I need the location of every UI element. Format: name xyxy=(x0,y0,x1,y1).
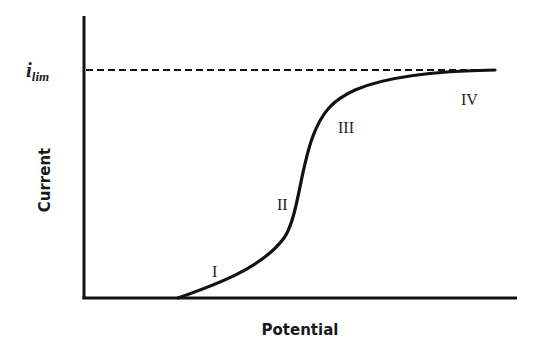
region-label-4: IV xyxy=(461,91,478,108)
region-label-3: III xyxy=(338,119,354,136)
current-potential-curve xyxy=(178,70,495,298)
x-axis-label: Potential xyxy=(262,321,339,339)
region-label-2: II xyxy=(277,196,288,213)
y-axis-label: Current xyxy=(36,148,54,213)
region-label-1: I xyxy=(212,263,217,280)
ilim-label: ilim xyxy=(26,58,49,84)
polarization-curve-diagram: ilim Current Potential I II III IV xyxy=(0,0,536,356)
